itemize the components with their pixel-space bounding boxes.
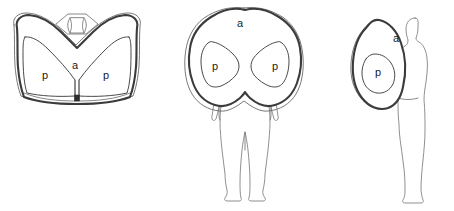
axial-midline-marker [75,95,80,101]
coronal-label-posterior-left: p [212,60,218,72]
coronal-label-posterior-right: p [272,60,278,72]
sagittal-label-anterior: a [393,32,400,44]
axial-label-posterior-left: p [42,69,48,81]
coronal-label-anterior: a [237,17,244,29]
panel-sagittal-lateral: a p [320,0,454,211]
axial-view-svg: a p p [0,0,155,211]
coronal-view-svg: a p p [170,0,320,211]
sagittal-view-svg: a p [320,0,454,211]
axial-label-posterior-right: p [103,69,109,81]
axial-superior-hexagon-divider-left [70,18,72,33]
axial-label-anterior: a [72,59,79,71]
panel-axial-cross-section: a p p [0,0,155,211]
diagram-canvas: a p p a p [0,0,454,211]
axial-superior-hexagon-divider-right [83,18,85,33]
panel-coronal-frontal: a p p [170,0,320,211]
sagittal-label-posterior: p [375,66,381,78]
